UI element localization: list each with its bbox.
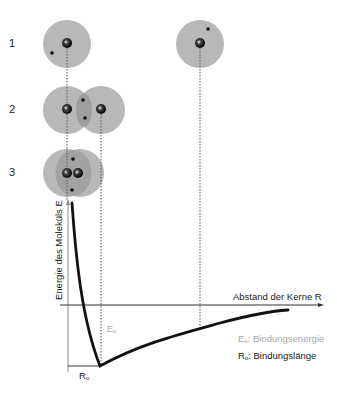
nucleus — [62, 38, 72, 48]
legend-bond-length: Ro: Bindungslänge — [238, 350, 316, 361]
electron — [206, 27, 210, 31]
axes — [60, 199, 324, 372]
row-3-atoms — [43, 149, 104, 197]
electron — [71, 157, 75, 161]
y-axis-label: Energie des Moleküls E — [53, 200, 64, 300]
electron — [81, 98, 85, 102]
row-number-3: 3 — [9, 166, 15, 178]
row-number-1: 1 — [9, 37, 15, 49]
row-1-atoms — [43, 20, 224, 68]
energy-marker: Eo — [107, 324, 116, 334]
nucleus — [195, 38, 205, 48]
bond-length-marker: Ro — [79, 370, 89, 381]
legend-binding-energy: Eo: Bindungsenergie — [238, 333, 324, 344]
x-axis-label: Abstand der Kerne R — [233, 291, 322, 302]
x-axis-arrow — [318, 303, 324, 307]
electron — [50, 51, 54, 55]
row-number-2: 2 — [9, 103, 15, 115]
nucleus — [73, 168, 83, 178]
y-axis-arrow — [66, 199, 70, 205]
electron — [70, 188, 74, 192]
row-2-atoms — [43, 86, 125, 134]
electron — [83, 116, 87, 120]
nucleus — [96, 104, 106, 114]
